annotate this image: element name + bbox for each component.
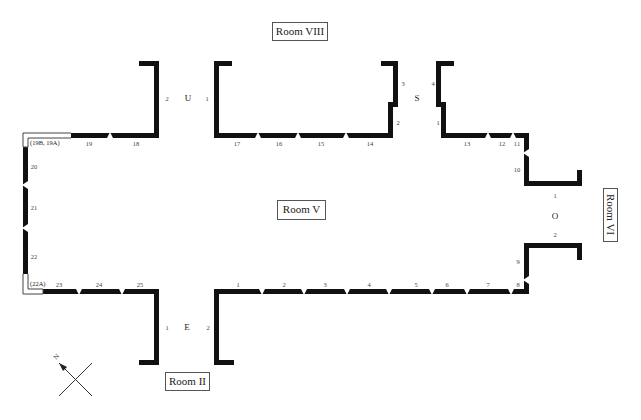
panel-label: 23 (56, 281, 63, 288)
wall-segment (524, 181, 582, 186)
wall-segment (441, 102, 446, 138)
svg-text:N: N (52, 352, 61, 361)
jamb-label: 1 (165, 324, 168, 331)
jamb-label: 2 (206, 324, 209, 331)
jamb-label: 2 (553, 231, 556, 238)
wall-segment (577, 243, 582, 260)
wall-segment (388, 102, 393, 138)
wall-segment (214, 360, 234, 365)
jamb-label: 1 (553, 192, 556, 199)
wall-segment (23, 147, 28, 274)
panel-label: 3 (323, 281, 326, 288)
panel-label: 11 (514, 140, 520, 147)
panel-label: 16 (276, 140, 283, 147)
panel-label: 13 (464, 140, 471, 147)
wall-segment (524, 243, 582, 248)
wall-segment (214, 133, 393, 138)
panel-label: 10 (514, 166, 521, 173)
panel-label: 14 (367, 140, 374, 147)
wall-segment (577, 170, 582, 186)
room-label-ii: Room II (165, 372, 210, 391)
jamb-label: 1 (436, 119, 439, 126)
panel-label: 24 (96, 281, 103, 288)
jamb-label: 2 (396, 119, 399, 126)
doorway-s-label: S (414, 93, 419, 103)
wall-segment (524, 243, 529, 294)
panel-label: 2 (282, 281, 285, 288)
panel-label: 25 (137, 281, 144, 288)
wall-segment (214, 289, 219, 365)
corner-label-bottom-left: (22A) (30, 280, 46, 287)
room-label-viii: Room VIII (272, 22, 328, 41)
wall-segment (43, 289, 159, 294)
wall-segment (524, 133, 529, 186)
wall-segment (139, 360, 159, 365)
jamb-label: 4 (431, 80, 434, 87)
panel-label: 6 (445, 281, 448, 288)
wall-segment (381, 61, 398, 66)
panel-label: 12 (499, 140, 506, 147)
jamb-label: 3 (401, 80, 404, 87)
jamb-label: 2 (165, 95, 168, 102)
panel-label: 1 (236, 281, 239, 288)
panel-label: 18 (133, 140, 140, 147)
panel-label: 20 (31, 163, 38, 170)
doorway-o-label: O (552, 211, 559, 221)
wall-segment (436, 61, 441, 107)
wall-segment (71, 133, 159, 138)
panel-label: 19 (86, 140, 93, 147)
jamb-label: 1 (205, 95, 208, 102)
room-label-vi: Room VI (603, 188, 618, 242)
doorway-u-label: U (185, 93, 192, 103)
wall-segment (441, 133, 529, 138)
panel-label: 5 (414, 281, 417, 288)
wall-segment (393, 61, 398, 107)
panel-label: 4 (367, 281, 370, 288)
wall-segment (154, 289, 159, 365)
panel-label: 21 (31, 204, 38, 211)
compass: N (52, 352, 92, 396)
corner-label-top-left: (19B, 19A) (30, 139, 60, 146)
doorway-e-label: E (184, 322, 190, 332)
wall-segment (214, 61, 219, 138)
wall-segment (154, 61, 159, 138)
panel-label: 22 (31, 253, 38, 260)
panel-label: 17 (234, 140, 241, 147)
panel-label: 9 (516, 258, 519, 265)
panel-label: 15 (318, 140, 325, 147)
panel-label: 8 (516, 281, 519, 288)
panel-label: 7 (486, 281, 489, 288)
room-label-v: Room V (277, 200, 326, 220)
